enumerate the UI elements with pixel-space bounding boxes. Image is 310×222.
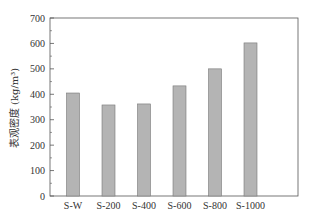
bar bbox=[173, 86, 186, 196]
bar bbox=[102, 105, 115, 196]
bar-chart: 0100200300400500600700 S-WS-200S-400S-60… bbox=[0, 0, 310, 222]
x-tick-label: S-1000 bbox=[236, 200, 265, 211]
x-tick-label: S-600 bbox=[168, 200, 192, 211]
y-tick-label: 100 bbox=[30, 165, 45, 176]
y-tick-label: 600 bbox=[30, 38, 45, 49]
x-axis-labels: S-WS-200S-400S-600S-800S-1000 bbox=[64, 200, 265, 211]
y-tick-label: 300 bbox=[30, 114, 45, 125]
x-tick-label: S-400 bbox=[132, 200, 156, 211]
y-tick-label: 400 bbox=[30, 89, 45, 100]
bar bbox=[67, 93, 80, 196]
y-axis-label: 表观密度 (kg/m³) bbox=[8, 68, 20, 148]
y-tick-label: 700 bbox=[30, 13, 45, 24]
y-tick-label: 0 bbox=[40, 191, 45, 202]
bar bbox=[209, 69, 222, 196]
bars bbox=[67, 43, 258, 196]
bar bbox=[138, 104, 151, 196]
x-tick-label: S-W bbox=[64, 200, 83, 211]
x-tick-label: S-200 bbox=[97, 200, 121, 211]
y-tick-label: 500 bbox=[30, 63, 45, 74]
x-tick-label: S-800 bbox=[203, 200, 227, 211]
bar bbox=[244, 43, 257, 196]
y-tick-label: 200 bbox=[30, 140, 45, 151]
